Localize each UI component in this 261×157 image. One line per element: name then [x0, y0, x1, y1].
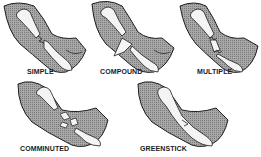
panel-simple: SIMPLE [0, 0, 90, 78]
label-comminuted: COMMINUTED [20, 145, 69, 152]
panel-greenstick: GREENSTICK [130, 80, 261, 157]
label-compound: COMPOUND [100, 68, 142, 75]
compound-fracture-illustration [88, 0, 178, 78]
panel-comminuted: COMMINUTED [0, 80, 120, 157]
panel-multiple: MULTIPLE [176, 0, 261, 78]
label-simple: SIMPLE [27, 68, 54, 75]
panel-compound: COMPOUND [88, 0, 178, 78]
label-greenstick: GREENSTICK [140, 145, 187, 152]
multiple-fracture-illustration [176, 0, 261, 78]
simple-fracture-illustration [0, 0, 90, 78]
label-multiple: MULTIPLE [197, 68, 232, 75]
